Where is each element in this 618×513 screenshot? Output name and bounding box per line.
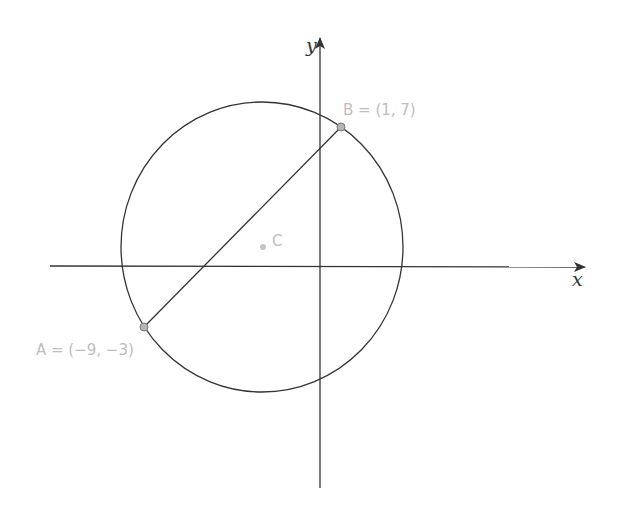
point-c-label: C [272, 232, 282, 250]
x-axis [50, 266, 585, 267]
point-b-label: B = (1, 7) [343, 101, 416, 119]
diameter-segment-ab [144, 127, 341, 327]
point-a-label: A = (−9, −3) [36, 341, 134, 359]
coordinate-diagram: x y A = (−9, −3) B = (1, 7) C [0, 0, 618, 513]
point-a [140, 323, 148, 331]
point-c [260, 244, 266, 250]
x-axis-label: x [572, 268, 583, 290]
y-axis-label: y [305, 34, 317, 56]
point-b [337, 123, 345, 131]
